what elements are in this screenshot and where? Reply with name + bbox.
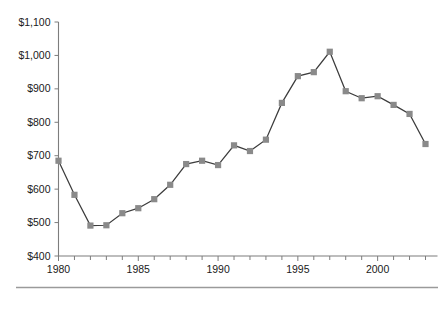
data-point-marker: [327, 49, 333, 55]
x-axis-tick-label: 2000: [366, 263, 390, 275]
y-axis-tick-label: $1,000: [18, 49, 50, 61]
y-axis-tick-label: $900: [27, 82, 51, 94]
axis-lines: [59, 22, 438, 256]
y-axis-tick-label: $500: [27, 216, 51, 228]
data-point-marker: [343, 88, 349, 94]
data-point-marker: [167, 182, 173, 188]
y-axis-tick-label: $700: [27, 149, 51, 161]
data-point-marker: [151, 196, 157, 202]
y-axis-tick-label: $400: [27, 250, 51, 262]
y-axis-tick-label: $800: [27, 116, 51, 128]
y-axis-tick-label: $1,100: [18, 16, 50, 28]
data-point-marker: [119, 210, 125, 216]
data-series-markers: [55, 49, 428, 229]
data-point-marker: [390, 102, 396, 108]
x-axis-labels: 19801985199019952000: [47, 263, 390, 275]
line-chart: $400$500$600$700$800$900$1,000$1,100 198…: [0, 0, 448, 309]
x-axis-tick-group: [59, 256, 426, 261]
data-point-marker: [263, 137, 269, 143]
data-series-line: [59, 52, 426, 226]
x-axis-tick-label: 1980: [47, 263, 71, 275]
data-point-marker: [247, 148, 253, 154]
x-axis-tick-label: 1985: [127, 263, 151, 275]
data-point-marker: [103, 222, 109, 228]
data-point-marker: [183, 161, 189, 167]
x-axis-tick-label: 1995: [286, 263, 310, 275]
data-point-marker: [406, 111, 412, 117]
data-point-marker: [71, 192, 77, 198]
y-axis-tick-label: $600: [27, 183, 51, 195]
data-point-marker: [215, 162, 221, 168]
x-axis-tick-label: 1990: [206, 263, 230, 275]
data-point-marker: [135, 205, 141, 211]
data-point-marker: [375, 93, 381, 99]
data-point-marker: [231, 142, 237, 148]
data-point-marker: [279, 100, 285, 106]
data-point-marker: [422, 141, 428, 147]
data-point-marker: [87, 222, 93, 228]
data-point-marker: [359, 95, 365, 101]
chart-figure: $400$500$600$700$800$900$1,000$1,100 198…: [0, 0, 448, 309]
data-point-marker: [311, 69, 317, 75]
y-axis-labels: $400$500$600$700$800$900$1,000$1,100: [18, 16, 50, 262]
y-axis-tick-group: [55, 22, 59, 256]
data-point-marker: [295, 73, 301, 79]
data-point-marker: [55, 158, 61, 164]
data-point-marker: [199, 158, 205, 164]
